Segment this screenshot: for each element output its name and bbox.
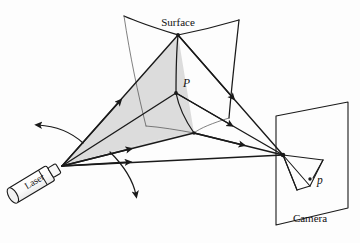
label-camera: Camera <box>293 212 327 224</box>
sweep-arrow-down <box>110 152 136 195</box>
laser-light-sheet <box>62 35 194 166</box>
label-point-P: P <box>182 77 190 89</box>
marker-point-P <box>174 91 178 95</box>
point-markers <box>174 33 312 181</box>
marker-surface-vertex <box>176 33 180 37</box>
marker-camera-center <box>281 153 286 158</box>
diagram-svg: Surface P p Camera Laser <box>0 0 360 243</box>
label-point-p-image: p <box>316 174 323 187</box>
label-surface: Surface <box>161 16 195 28</box>
sweep-arrow-left <box>38 125 83 143</box>
figure-canvas: Surface P p Camera Laser <box>0 0 360 243</box>
marker-stripe-bottom <box>192 131 195 134</box>
marker-point-p-image <box>308 177 311 180</box>
